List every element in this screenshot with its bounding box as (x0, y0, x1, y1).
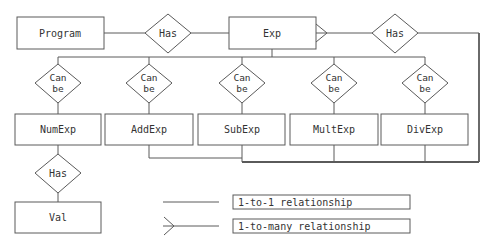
label-be: be (143, 83, 155, 94)
legend-one-to-one-label: 1-to-1 relationship (238, 197, 352, 208)
label-exp: Exp (263, 28, 281, 39)
label-has-3: Has (49, 168, 67, 179)
label-program: Program (39, 28, 81, 39)
label-can: Can (140, 72, 157, 83)
label-be: be (328, 83, 340, 94)
label-can: Can (416, 72, 433, 83)
label-subexp: SubExp (224, 124, 260, 135)
label-divexp: DivExp (407, 124, 443, 135)
label-has-1: Has (159, 28, 177, 39)
label-can: Can (49, 72, 66, 83)
label-can: Can (233, 72, 250, 83)
label-val: Val (49, 212, 67, 223)
er-diagram: Program Exp NumExp AddExp SubExp MultExp… (0, 0, 494, 248)
label-be: be (52, 83, 64, 94)
legend-one-to-many-label: 1-to-many relationship (238, 221, 370, 232)
label-be: be (419, 83, 431, 94)
label-addexp: AddExp (131, 124, 167, 135)
label-multexp: MultExp (313, 124, 355, 135)
label-numexp: NumExp (40, 124, 76, 135)
label-can: Can (325, 72, 342, 83)
label-be: be (236, 83, 248, 94)
label-has-2: Has (386, 28, 404, 39)
